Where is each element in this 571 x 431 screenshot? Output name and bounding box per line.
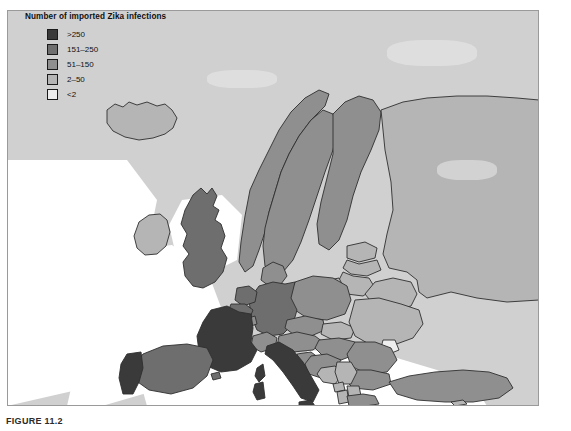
map-legend: Number of imported Zika infections >250 … (25, 12, 166, 102)
legend-item-lt2: <2 (47, 87, 166, 102)
legend-swatch-lt2 (47, 89, 58, 100)
legend-item-51-150: 51–150 (47, 57, 166, 72)
legend-swatch-51-150 (47, 59, 58, 70)
legend-label-lt2: <2 (67, 90, 76, 99)
legend-label-2-50: 2–50 (67, 75, 85, 84)
legend-label-gt250: >250 (67, 30, 85, 39)
legend-label-151-250: 151–250 (67, 45, 98, 54)
legend-item-gt250: >250 (47, 27, 166, 42)
legend-item-151-250: 151–250 (47, 42, 166, 57)
legend-label-51-150: 51–150 (67, 60, 94, 69)
legend-swatch-2-50 (47, 74, 58, 85)
legend-swatch-gt250 (47, 29, 58, 40)
country-greece (347, 394, 379, 406)
island-balearics (211, 372, 221, 380)
legend-swatch-151-250 (47, 44, 58, 55)
legend-title: Number of imported Zika infections (25, 12, 166, 21)
country-russia (381, 96, 539, 302)
figure-caption: FIGURE 11.2 (6, 416, 63, 431)
legend-item-2-50: 2–50 (47, 72, 166, 87)
